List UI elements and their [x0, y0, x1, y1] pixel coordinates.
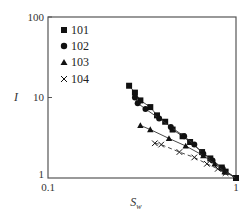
- data-point: [204, 161, 210, 167]
- data-point: [191, 155, 197, 161]
- y-axis-label: I: [13, 90, 19, 104]
- y-tick-label-100: 100: [28, 11, 45, 23]
- data-point: [181, 133, 187, 139]
- legend-label: 104: [71, 72, 89, 86]
- data-point: [156, 115, 162, 121]
- legend-label: 101: [71, 23, 89, 37]
- x-marker-icon: [61, 76, 67, 82]
- data-point: [142, 106, 148, 112]
- data-point: [147, 126, 153, 132]
- series-line: [129, 86, 236, 178]
- data-point: [166, 135, 172, 141]
- data-point: [137, 122, 143, 128]
- legend-label: 103: [71, 55, 89, 69]
- x-axis-label: Sw: [130, 195, 142, 211]
- square-marker-icon: [61, 27, 67, 33]
- x-tick-label-0.1: 0.1: [41, 181, 55, 193]
- legend: 101 102 103 104: [61, 23, 90, 86]
- legend-item-104: 104: [61, 72, 89, 86]
- x-tick-label-1: 1: [233, 181, 239, 193]
- x-axis-label-sub: w: [136, 202, 142, 211]
- series-layer: [126, 83, 239, 181]
- legend-label: 102: [71, 39, 89, 53]
- data-point: [168, 124, 174, 130]
- data-point: [135, 100, 141, 106]
- legend-item-102: 102: [61, 39, 89, 53]
- log-log-scatter-chart: 100 10 1 0.1 1 I Sw 101 102 103 104: [0, 0, 248, 214]
- legend-item-103: 103: [61, 55, 90, 69]
- circle-marker-icon: [61, 43, 67, 49]
- triangle-marker-icon: [61, 59, 68, 65]
- data-point: [158, 142, 164, 148]
- y-tick-label-10: 10: [33, 91, 45, 103]
- data-point: [191, 142, 197, 148]
- y-tick-label-1: 1: [39, 168, 45, 180]
- data-point: [132, 95, 138, 101]
- data-point: [177, 149, 183, 155]
- data-point: [126, 83, 132, 89]
- legend-item-101: 101: [61, 23, 89, 37]
- series-102: [132, 95, 239, 182]
